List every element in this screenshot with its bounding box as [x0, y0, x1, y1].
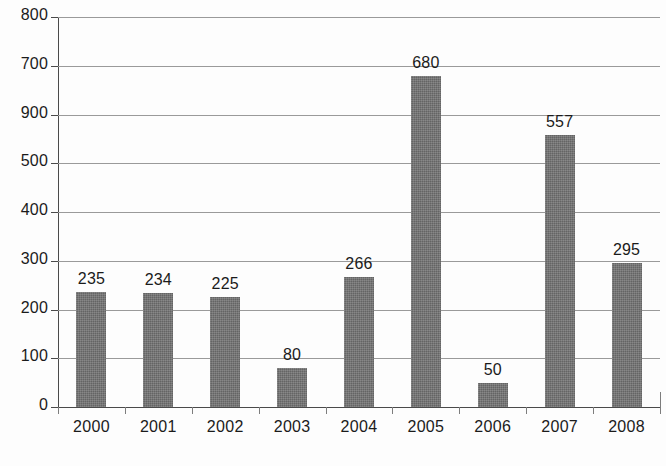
x-tick-label-2004: 2004 [324, 418, 394, 436]
bar-value-2002: 225 [190, 275, 260, 293]
plot-area [58, 17, 660, 407]
gridline-800 [58, 17, 660, 18]
x-tick-label-2008: 2008 [592, 418, 662, 436]
x-tick-mark-8 [593, 407, 594, 414]
x-tick-mark-end [660, 407, 661, 414]
bar-2004 [344, 277, 374, 407]
y-tick-label-300: 300 [6, 250, 48, 268]
bar-value-2006: 50 [458, 361, 528, 379]
bar-2001 [143, 293, 173, 407]
bar-2005 [411, 76, 441, 408]
x-tick-label-2000: 2000 [56, 418, 126, 436]
y-tick-mark-400 [51, 212, 58, 213]
y-tick-mark-800 [51, 17, 58, 18]
x-tick-label-2003: 2003 [257, 418, 327, 436]
bar-2000 [76, 292, 106, 407]
bar-value-2001: 234 [123, 271, 193, 289]
y-tick-label-400: 400 [6, 201, 48, 219]
x-tick-mark-6 [459, 407, 460, 414]
x-tick-mark-0 [58, 407, 59, 414]
y-tick-label-200: 200 [6, 299, 48, 317]
y-tick-label-700: 700 [6, 55, 48, 73]
x-tick-label-2005: 2005 [391, 418, 461, 436]
y-tick-label-100: 100 [6, 347, 48, 365]
x-tick-mark-7 [526, 407, 527, 414]
y-tick-mark-0 [51, 407, 58, 408]
bar-2002 [210, 297, 240, 407]
bar-value-2004: 266 [324, 255, 394, 273]
bar-value-2008: 295 [592, 241, 662, 259]
y-tick-mark-700 [51, 66, 58, 67]
y-tick-mark-200 [51, 310, 58, 311]
y-tick-label-800: 800 [6, 6, 48, 24]
x-tick-label-2007: 2007 [525, 418, 595, 436]
bar-2007 [545, 135, 575, 407]
bar-2003 [277, 368, 307, 407]
bar-chart-figure: 8007009005004003002001000 23523422580266… [0, 0, 666, 466]
x-tick-mark-5 [392, 407, 393, 414]
y-tick-label-0: 0 [6, 396, 48, 414]
y-tick-label-500: 500 [6, 152, 48, 170]
bar-value-2005: 680 [391, 54, 461, 72]
bar-2006 [478, 383, 508, 407]
bar-value-2000: 235 [56, 270, 126, 288]
y-tick-mark-100 [51, 358, 58, 359]
x-tick-label-2006: 2006 [458, 418, 528, 436]
gridline-700 [58, 66, 660, 67]
gridline-0 [58, 407, 660, 408]
clipped-caption [38, 456, 638, 466]
bar-value-2003: 80 [257, 346, 327, 364]
x-tick-mark-2 [192, 407, 193, 414]
y-tick-label-900: 900 [6, 104, 48, 122]
y-tick-mark-300 [51, 261, 58, 262]
y-tick-mark-500 [51, 163, 58, 164]
bar-2008 [612, 263, 642, 407]
x-tick-label-2002: 2002 [190, 418, 260, 436]
bar-value-2007: 557 [525, 113, 595, 131]
x-tick-mark-1 [125, 407, 126, 414]
x-tick-mark-4 [326, 407, 327, 414]
x-tick-mark-3 [259, 407, 260, 414]
x-tick-label-2001: 2001 [123, 418, 193, 436]
y-tick-mark-900 [51, 115, 58, 116]
x-axis-right-cap [660, 392, 661, 408]
